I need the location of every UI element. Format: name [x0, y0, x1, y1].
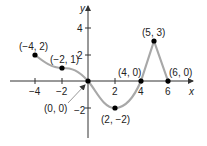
point-6-0 [165, 78, 170, 83]
tick-y-4: 4 [77, 23, 83, 34]
point-5-3 [151, 38, 156, 43]
tick-x-2: 2 [112, 86, 118, 97]
point-2-m2 [112, 105, 117, 110]
point-m2-1 [59, 65, 64, 70]
x-axis-label: x [188, 86, 195, 97]
tick-x-minus2: −2 [56, 86, 68, 97]
function-graph: −4 −2 2 4 6 x 4 2 −2 y (−4, 2) (−2, 1) (… [0, 0, 207, 146]
label-point-m4-2: (−4, 2) [19, 41, 48, 52]
tick-x-6: 6 [165, 86, 171, 97]
pointer-arrow-0-0 [68, 85, 85, 103]
label-point-6-0: (6, 0) [169, 67, 192, 78]
label-point-m2-1: (−2, 1) [50, 54, 79, 65]
point-0-0 [85, 78, 90, 83]
tick-y-minus2: −2 [74, 105, 86, 116]
function-curve [35, 41, 168, 108]
tick-x-minus4: −4 [29, 86, 41, 97]
label-point-2-m2: (2, −2) [101, 114, 130, 125]
label-point-4-0: (4, 0) [118, 67, 141, 78]
y-axis-label: y [79, 3, 86, 14]
label-point-5-3: (5, 3) [142, 27, 165, 38]
label-point-0-0: (0, 0) [44, 103, 67, 114]
point-4-0 [138, 78, 143, 83]
point-m4-2 [32, 52, 37, 57]
